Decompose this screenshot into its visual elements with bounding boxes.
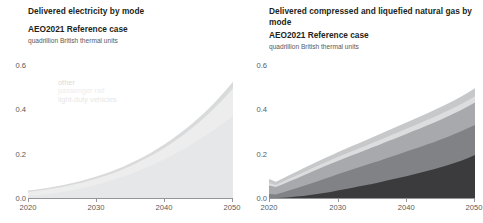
chart-units: quadrillion British thermal units	[28, 36, 235, 45]
x-tick-label: 2020	[261, 203, 278, 212]
y-tick-label: 0.6	[256, 62, 267, 70]
chart-header-right: Delivered compressed and liquefied natur…	[269, 6, 477, 51]
chart-units: quadrillion British thermal units	[269, 42, 477, 51]
y-tick-label: 0.2	[15, 151, 26, 159]
y-axis-right: 0.0 0.2 0.4 0.6	[243, 66, 267, 199]
plot-area-right: 0.0 0.2 0.4 0.6 2020 2030 2040 2050	[269, 66, 475, 199]
page-title: Delivered electricity by mode	[28, 6, 235, 17]
chart-panel-delivered-electricity: Delivered electricity by mode AEO2021 Re…	[0, 0, 241, 223]
chart-subtitle: AEO2021 Reference case	[269, 30, 477, 41]
chart-header-left: Delivered electricity by mode AEO2021 Re…	[28, 6, 235, 45]
y-tick-label: 0.6	[15, 62, 26, 70]
y-axis-left: 0.0 0.2 0.4 0.6	[2, 66, 26, 199]
x-tick-label: 2050	[224, 203, 241, 212]
y-tick-label: 0.0	[256, 195, 267, 203]
chart-subtitle: AEO2021 Reference case	[28, 24, 235, 35]
x-tick-label: 2020	[20, 203, 37, 212]
area-chart-right	[269, 66, 475, 199]
area-chart-left	[28, 66, 233, 199]
y-tick-label: 0.2	[256, 151, 267, 159]
page-title: Delivered compressed and liquefied natur…	[269, 6, 477, 28]
y-tick-label: 0.4	[15, 106, 26, 114]
x-tick-label: 2040	[156, 203, 173, 212]
chart-pair-figure: Delivered electricity by mode AEO2021 Re…	[0, 0, 483, 223]
y-tick-label: 0.4	[256, 106, 267, 114]
x-axis-left: 2020 2030 2040 2050	[28, 200, 233, 214]
x-tick-label: 2050	[466, 203, 483, 212]
chart-panel-delivered-cng-lng: Delivered compressed and liquefied natur…	[241, 0, 483, 223]
x-tick-label: 2030	[88, 203, 105, 212]
x-tick-label: 2030	[329, 203, 346, 212]
x-axis-right: 2020 2030 2040 2050	[269, 200, 475, 214]
x-axis-line-left	[28, 198, 233, 199]
x-tick-label: 2040	[398, 203, 415, 212]
plot-area-left: 0.0 0.2 0.4 0.6 2020 2030 2040 2050	[28, 66, 233, 199]
x-axis-line-right	[269, 198, 475, 199]
y-tick-label: 0.0	[15, 195, 26, 203]
